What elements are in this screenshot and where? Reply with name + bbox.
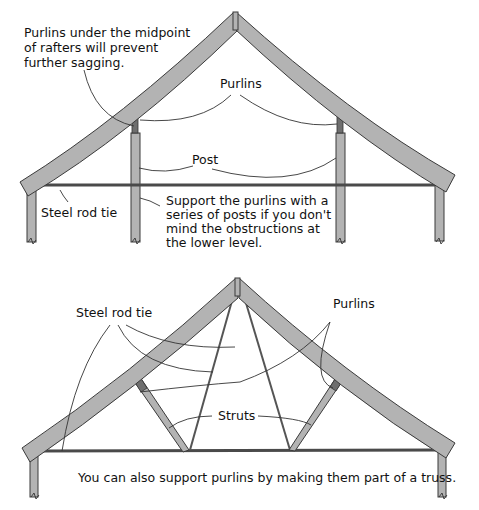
support-note-line2: series of posts if you don't — [166, 207, 331, 222]
purlins-label-top: Purlins — [220, 76, 262, 91]
post-label: Post — [192, 152, 218, 167]
svg-text:You can also support purlins b: You can also support purlins by making t… — [77, 470, 456, 485]
purlins-note-line2: of rafters will prevent — [24, 40, 158, 55]
left-interior-post — [131, 133, 140, 242]
svg-text:Struts: Struts — [218, 408, 255, 423]
svg-text:Steel rod tie: Steel rod tie — [76, 305, 152, 320]
ridge-board — [233, 12, 238, 30]
svg-text:the lower level.: the lower level. — [166, 235, 262, 250]
ridge-board-bottom — [235, 278, 240, 296]
purlins-note-line1: Purlins under the midpoint — [24, 25, 190, 40]
purlins-note-line3: further sagging. — [24, 55, 124, 70]
svg-text:mind the obstructions at: mind the obstructions at — [166, 221, 320, 236]
svg-text:Purlins: Purlins — [220, 76, 262, 91]
support-note-line4: the lower level. — [166, 235, 262, 250]
right-wall-post — [435, 183, 444, 241]
svg-text:Purlins under the midpoint: Purlins under the midpoint — [24, 25, 190, 40]
svg-text:Post: Post — [192, 152, 218, 167]
steel-rod-tie-bottom — [38, 450, 438, 451]
svg-text:Purlins: Purlins — [333, 296, 375, 311]
purlins-label-bottom: Purlins — [333, 296, 375, 311]
support-note-line1: Support the purlins with a — [166, 193, 328, 208]
struts-label: Struts — [218, 408, 255, 423]
steel-rod-tie-label-top: Steel rod tie — [41, 205, 117, 220]
svg-text:of rafters will prevent: of rafters will prevent — [24, 40, 158, 55]
svg-text:Support the purlins with a: Support the purlins with a — [166, 193, 328, 208]
bottom-labels: Steel rod tie Purlins Struts You can als… — [76, 296, 456, 485]
svg-text:further sagging.: further sagging. — [24, 55, 124, 70]
steel-rod-tie-label-bottom: Steel rod tie — [76, 305, 152, 320]
support-note-line3: mind the obstructions at — [166, 221, 320, 236]
truss-caption: You can also support purlins by making t… — [77, 470, 456, 485]
roof-support-diagram: Purlins under the midpoint of rafters wi… — [0, 0, 479, 510]
svg-text:Steel rod tie: Steel rod tie — [41, 205, 117, 220]
svg-text:series of posts if you don't: series of posts if you don't — [166, 207, 331, 222]
right-interior-post — [336, 133, 345, 242]
